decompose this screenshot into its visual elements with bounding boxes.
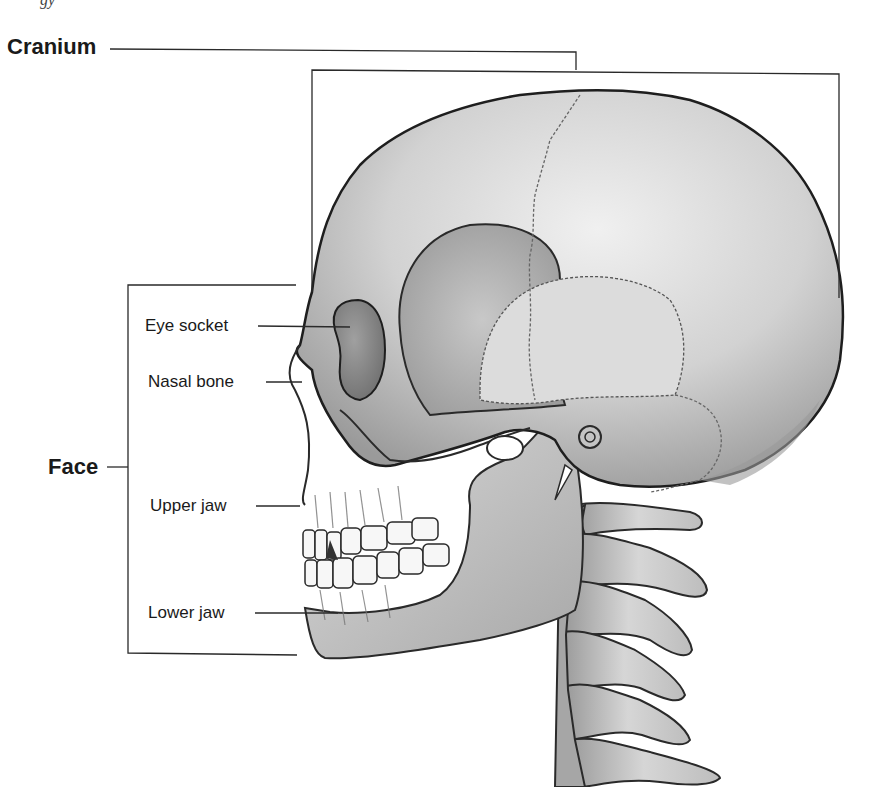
lower-jaw-label: Lower jaw bbox=[148, 604, 225, 621]
skull-illustration bbox=[0, 0, 870, 787]
eye-socket-label: Eye socket bbox=[145, 317, 228, 334]
nasal-bone-label: Nasal bone bbox=[148, 373, 234, 390]
cranium-leader-line bbox=[110, 49, 576, 70]
maxilla-front bbox=[290, 345, 310, 505]
caption-fragment: gy bbox=[40, 0, 55, 9]
eye-socket-shape bbox=[334, 300, 385, 400]
upper-jaw-label: Upper jaw bbox=[150, 497, 227, 514]
face-bracket bbox=[128, 285, 297, 655]
cranium-label: Cranium bbox=[7, 36, 96, 58]
teeth bbox=[303, 518, 449, 588]
skull-diagram: gy Cranium Face Eye socket Nasal bone Up… bbox=[0, 0, 870, 787]
ear-canal bbox=[487, 436, 523, 460]
face-label: Face bbox=[48, 456, 98, 478]
